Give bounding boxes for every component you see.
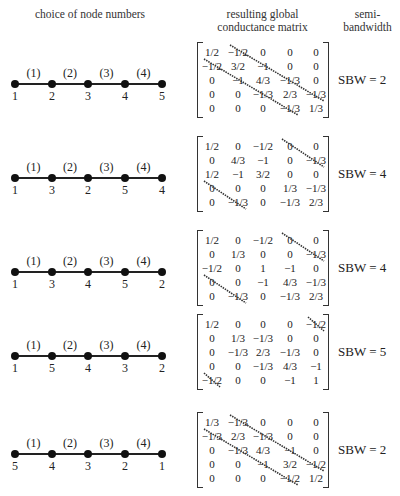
matrix-cell: 1/3 <box>301 102 331 115</box>
matrix-cell: −1/3 <box>301 154 331 167</box>
node-number: 2 <box>44 89 60 104</box>
node-dot <box>84 268 92 276</box>
matrix-cell: 0 <box>248 182 278 195</box>
matrix-cell: 0 <box>248 374 278 387</box>
matrix-cell: −1/3 <box>301 248 331 261</box>
element-label: (2) <box>55 66 85 81</box>
matrix-cell: 0 <box>248 472 278 485</box>
matrix-cell: −1/3 <box>248 360 278 373</box>
matrix-cell: 0 <box>248 290 278 303</box>
node-dot <box>84 174 92 182</box>
matrix-cell: 0 <box>301 60 331 73</box>
element-label: (4) <box>129 160 159 175</box>
node-number: 3 <box>44 183 60 198</box>
matrix-cell: −1/2 <box>301 318 331 331</box>
element-label: (2) <box>55 338 85 353</box>
matrix-cell: 2/3 <box>248 346 278 359</box>
node-dot <box>121 174 129 182</box>
node-dot <box>11 450 19 458</box>
matrix-cell: 0 <box>301 140 331 153</box>
matrix-cell: 3/2 <box>248 168 278 181</box>
node-dot <box>48 352 56 360</box>
node-dot <box>158 174 166 182</box>
element-label: (4) <box>129 436 159 451</box>
matrix-cell: −1/2 <box>248 140 278 153</box>
matrix-cell: −1/3 <box>248 332 278 345</box>
matrix-cell: 0 <box>301 346 331 359</box>
sbw-label: SBW = 2 <box>338 72 386 88</box>
matrix-cell: −1/2 <box>248 234 278 247</box>
node-number: 5 <box>154 89 170 104</box>
node-dot <box>84 450 92 458</box>
node-chain-diagram: 1(1)2(2)3(3)4(4)5 <box>0 70 180 130</box>
sbw-label: SBW = 2 <box>338 442 386 458</box>
matrix-cell: −1/3 <box>301 182 331 195</box>
element-label: (2) <box>55 436 85 451</box>
node-number: 4 <box>154 183 170 198</box>
sbw-label: SBW = 4 <box>338 260 386 276</box>
node-dot <box>11 80 19 88</box>
matrix-cell: 4/3 <box>248 74 278 87</box>
matrix-cell: 0 <box>301 234 331 247</box>
node-number: 5 <box>117 277 133 292</box>
element-label: (4) <box>129 66 159 81</box>
conductance-matrix: 1/3−1/3000−1/32/3−1/3000−1/34/3−1000−13/… <box>197 412 329 488</box>
node-number: 3 <box>80 89 96 104</box>
header-conductance-line1: resulting global <box>195 8 330 21</box>
matrix-cell: 0 <box>248 102 278 115</box>
conductance-matrix: 1/20−1/20001/300−1/3−1/201−1000−14/3−1/3… <box>197 230 329 306</box>
element-label: (1) <box>19 160 49 175</box>
conductance-matrix: 1/2−1/2000−1/23/2−1000−14/3−1/3000−1/32/… <box>197 42 329 118</box>
node-dot <box>121 268 129 276</box>
node-dot <box>11 174 19 182</box>
matrix-cell: −1 <box>248 154 278 167</box>
element-label: (1) <box>19 254 49 269</box>
matrix-cell: −1 <box>301 360 331 373</box>
element-label: (3) <box>92 338 122 353</box>
matrix-cell: 0 <box>248 46 278 59</box>
matrix-cell: 0 <box>248 416 278 429</box>
matrix-cell: −1 <box>248 458 278 471</box>
matrix-cell: 1/2 <box>301 472 331 485</box>
node-dot <box>158 450 166 458</box>
node-dot <box>11 352 19 360</box>
matrix-cell: 2/3 <box>301 290 331 303</box>
node-dot <box>48 450 56 458</box>
node-number: 1 <box>7 89 23 104</box>
matrix-cell: 2/3 <box>301 196 331 209</box>
matrix-cell: −1/3 <box>301 276 331 289</box>
node-chain-diagram: 1(1)5(2)4(3)3(4)2 <box>0 342 180 402</box>
node-number: 4 <box>80 277 96 292</box>
node-dot <box>121 450 129 458</box>
header-node-numbers: choice of node numbers <box>0 8 180 21</box>
node-dot <box>158 268 166 276</box>
node-number: 3 <box>80 459 96 474</box>
matrix-cell: 4/3 <box>248 444 278 457</box>
node-dot <box>121 352 129 360</box>
element-label: (2) <box>55 160 85 175</box>
sbw-label: SBW = 4 <box>338 166 386 182</box>
matrix-cell: 0 <box>301 262 331 275</box>
matrix-cell: −1/3 <box>248 430 278 443</box>
matrix-cell: −1 <box>248 276 278 289</box>
matrix-cell: −1/3 <box>248 88 278 101</box>
node-number: 1 <box>7 361 23 376</box>
conductance-matrix: 1/20−1/20004/3−10−1/31/2−13/2000001/3−1/… <box>197 136 329 212</box>
matrix-cell: 0 <box>301 46 331 59</box>
element-label: (3) <box>92 436 122 451</box>
node-dot <box>48 174 56 182</box>
element-label: (4) <box>129 338 159 353</box>
element-label: (2) <box>55 254 85 269</box>
node-number: 5 <box>44 361 60 376</box>
matrix-cell: 0 <box>301 444 331 457</box>
node-number: 1 <box>7 277 23 292</box>
matrix-cell: 0 <box>301 416 331 429</box>
element-label: (3) <box>92 66 122 81</box>
header-conductance-line2: conductance matrix <box>195 21 330 34</box>
node-number: 4 <box>44 459 60 474</box>
node-number: 5 <box>117 183 133 198</box>
node-dot <box>158 352 166 360</box>
node-dot <box>84 80 92 88</box>
header-semi-bandwidth: semi- bandwidth <box>335 8 400 34</box>
matrix-cell: 1 <box>248 262 278 275</box>
